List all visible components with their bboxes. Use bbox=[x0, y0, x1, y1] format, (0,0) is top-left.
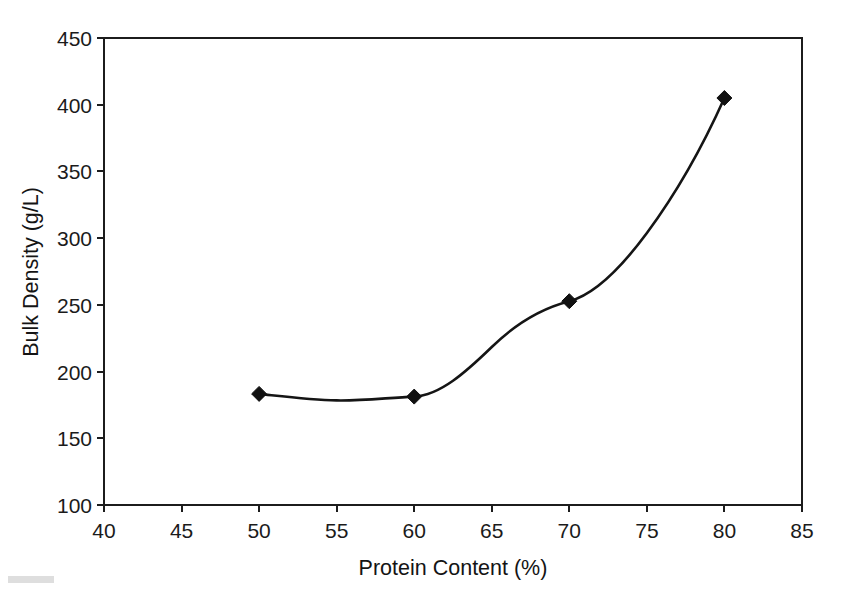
x-tick-label-85: 85 bbox=[790, 519, 813, 542]
data-point-60-181 bbox=[407, 389, 422, 404]
x-tick-label-65: 65 bbox=[480, 519, 503, 542]
y-tick-label-400: 400 bbox=[57, 94, 92, 117]
y-tick-label-350: 350 bbox=[57, 160, 92, 183]
x-tick-label-75: 75 bbox=[635, 519, 658, 542]
x-tick-label-40: 40 bbox=[92, 519, 115, 542]
x-tick-label-50: 50 bbox=[247, 519, 270, 542]
x-tick-label-45: 45 bbox=[170, 519, 193, 542]
scan-artifact bbox=[8, 576, 54, 583]
y-tick-label-100: 100 bbox=[57, 494, 92, 517]
x-tick-label-55: 55 bbox=[325, 519, 348, 542]
data-point-80-404 bbox=[717, 91, 732, 106]
y-tick-label-450: 450 bbox=[57, 27, 92, 50]
y-axis-title: Bulk Density (g/L) bbox=[19, 187, 43, 357]
plot-area-border bbox=[104, 38, 802, 505]
y-tick-label-150: 150 bbox=[57, 427, 92, 450]
y-tick-label-200: 200 bbox=[57, 361, 92, 384]
x-axis-title: Protein Content (%) bbox=[359, 556, 548, 580]
bulk-density-line-chart: 450 400 350 300 250 200 150 100 40 45 bbox=[0, 0, 843, 595]
y-tick-label-250: 250 bbox=[57, 294, 92, 317]
figure-container: 450 400 350 300 250 200 150 100 40 45 bbox=[0, 0, 843, 595]
data-point-50-183 bbox=[252, 386, 267, 401]
x-tick-label-80: 80 bbox=[713, 519, 736, 542]
x-axis-tick-labels: 40 45 50 55 60 65 70 75 80 85 bbox=[92, 519, 813, 542]
data-point-70-252 bbox=[562, 294, 577, 309]
y-axis-tick-labels: 450 400 350 300 250 200 150 100 bbox=[57, 27, 92, 517]
bulk-density-curve bbox=[259, 98, 724, 400]
y-tick-label-300: 300 bbox=[57, 227, 92, 250]
x-tick-label-60: 60 bbox=[403, 519, 426, 542]
data-point-markers bbox=[252, 91, 732, 405]
x-tick-label-70: 70 bbox=[558, 519, 581, 542]
